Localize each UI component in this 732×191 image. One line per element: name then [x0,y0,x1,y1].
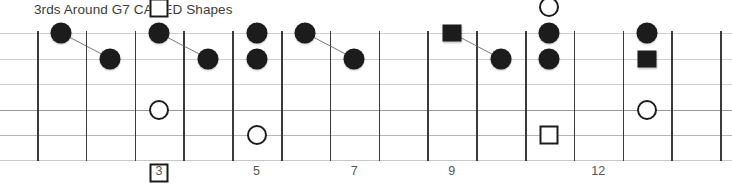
fretboard-diagram: 3rds Around G7 CAGED Shapes 357912 [0,0,732,191]
open-square-f3-above[interactable] [150,0,169,18]
open-circle-f5-s5[interactable] [247,125,267,145]
open-circle-f11-above[interactable] [539,0,559,17]
fret-line-15 [720,31,722,161]
fret-line-14 [671,31,673,161]
fret-line-4 [183,31,185,161]
fret-line-5 [232,31,234,161]
filled-circle-f7-s2[interactable] [344,48,365,69]
fret-line-11 [525,31,527,161]
fret-line-1 [37,31,39,161]
filled-circle-f6-s1[interactable] [295,23,316,44]
fret-line-2 [86,31,88,161]
fret-line-12 [574,31,576,161]
filled-circle-f5-s2[interactable] [246,48,267,69]
filled-circle-f4-s2[interactable] [197,48,218,69]
open-circle-f3-s4[interactable] [149,100,169,120]
filled-circle-f13-s1[interactable] [637,23,658,44]
open-square-f11-s5[interactable] [540,126,559,145]
filled-circle-f11-s2[interactable] [539,48,560,69]
filled-square-f9-s1[interactable] [442,25,461,42]
fret-number-12: 12 [591,164,605,178]
fret-line-13 [623,31,625,161]
fret-number-5: 5 [253,164,260,178]
fret-line-8 [379,31,381,161]
filled-circle-f2-s2[interactable] [100,48,121,69]
filled-circle-f10-s2[interactable] [490,48,511,69]
fret-line-3 [135,31,137,161]
fret-number-7: 7 [351,164,358,178]
filled-circle-f5-s1[interactable] [246,23,267,44]
fret-line-9 [427,31,429,161]
open-circle-f13-s4[interactable] [637,100,657,120]
filled-square-f13-s2[interactable] [638,50,657,67]
fret-number-3: 3 [156,164,163,178]
fret-line-10 [476,31,478,161]
fret-number-9: 9 [448,164,455,178]
fret-line-7 [330,31,332,161]
fretboard: 357912 [0,0,732,191]
filled-circle-f1-s1[interactable] [51,23,72,44]
filled-circle-f11-s1[interactable] [539,23,560,44]
filled-circle-f3-s1[interactable] [149,23,170,44]
fret-line-6 [281,31,283,161]
